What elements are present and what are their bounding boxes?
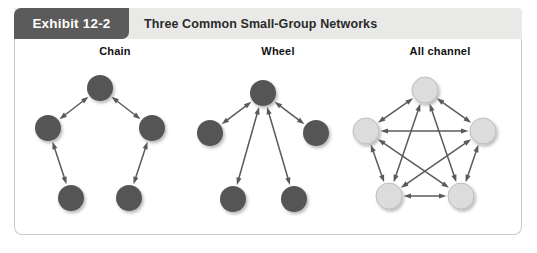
arrowhead-all-channel: [371, 145, 376, 153]
edge-all-channel: [373, 150, 382, 176]
network-node-chain-right: [139, 115, 165, 141]
exhibit-header: Exhibit 12-2 Three Common Small-Group Ne…: [14, 8, 522, 39]
edge-chain: [54, 147, 64, 178]
arrowhead-all-channel: [430, 104, 435, 112]
edge-wheel: [226, 105, 246, 120]
network-node-all-channel-right: [470, 118, 496, 144]
edge-all-channel: [396, 109, 419, 176]
edge-chain: [135, 147, 145, 178]
exhibit-panel: Exhibit 12-2 Three Common Small-Group Ne…: [14, 8, 522, 235]
arrowhead-all-channel: [405, 98, 413, 104]
arrowhead-chain: [143, 142, 148, 150]
arrowhead-all-channel: [473, 145, 478, 153]
exhibit-body: Chain Wheel All channel: [14, 39, 522, 235]
arrowhead-all-channel: [394, 174, 399, 182]
network-node-all-channel-bottom-left: [376, 183, 402, 209]
edge-wheel: [269, 113, 288, 180]
arrowhead-wheel: [255, 107, 260, 115]
small-group-networks-diagram: [15, 39, 521, 233]
network-node-chain-bottom-left: [58, 185, 84, 211]
arrowhead-all-channel: [378, 116, 386, 122]
exhibit-number-label: Exhibit 12-2: [32, 16, 110, 31]
network-node-chain-left: [35, 115, 61, 141]
edge-layer: [52, 97, 478, 199]
arrowhead-all-channel: [439, 193, 447, 198]
edge-all-channel: [383, 102, 408, 120]
edge-chain: [116, 100, 136, 115]
network-node-all-channel-bottom-right: [448, 183, 474, 209]
edge-all-channel: [432, 109, 455, 176]
edge-all-channel: [468, 150, 477, 176]
exhibit-number-tab: Exhibit 12-2: [14, 8, 129, 39]
network-node-wheel-bottom-right: [281, 186, 307, 212]
network-node-wheel-hub: [250, 80, 276, 106]
network-node-all-channel-left: [353, 118, 379, 144]
network-node-wheel-right: [303, 120, 329, 146]
arrowhead-wheel: [236, 177, 241, 185]
network-node-chain-top: [87, 75, 113, 101]
arrowhead-all-channel: [441, 181, 449, 187]
edge-wheel: [239, 113, 258, 180]
arrowhead-all-channel: [401, 181, 409, 187]
arrowhead-all-channel: [378, 139, 386, 145]
network-node-wheel-left: [197, 120, 223, 146]
arrowhead-all-channel: [451, 174, 456, 182]
arrowhead-wheel: [267, 107, 272, 115]
arrowhead-all-channel: [463, 139, 471, 145]
arrowhead-wheel: [285, 177, 290, 185]
edge-wheel: [279, 105, 299, 120]
edge-chain: [64, 100, 84, 115]
arrowhead-all-channel: [415, 104, 420, 112]
arrowhead-chain: [62, 176, 67, 184]
network-node-wheel-bottom-left: [220, 186, 246, 212]
network-node-all-channel-top: [412, 77, 438, 103]
arrowhead-chain: [52, 142, 57, 150]
arrowhead-all-channel: [461, 128, 469, 133]
arrowhead-all-channel: [404, 193, 412, 198]
arrowhead-all-channel: [381, 128, 389, 133]
arrowhead-all-channel: [466, 174, 471, 182]
arrowhead-all-channel: [379, 174, 384, 182]
exhibit-title: Three Common Small-Group Networks: [144, 8, 377, 39]
node-layer: [35, 75, 496, 212]
network-node-chain-bottom-right: [116, 185, 142, 211]
arrowhead-chain: [133, 176, 138, 184]
edge-all-channel: [442, 102, 467, 119]
